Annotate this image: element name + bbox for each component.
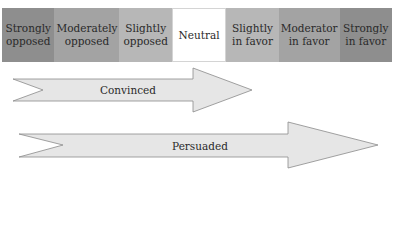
persuaded-arrow-label: Persuaded [172, 140, 228, 152]
convinced-arrow-label: Convinced [100, 84, 156, 96]
